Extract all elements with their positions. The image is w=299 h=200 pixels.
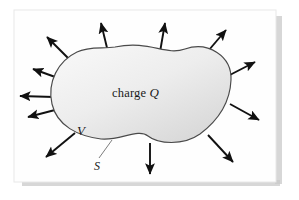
arrow-left-horizontal bbox=[20, 96, 54, 97]
figure-canvas bbox=[0, 0, 299, 200]
charge-symbol: Q bbox=[150, 85, 160, 100]
volume-label: V bbox=[77, 124, 85, 137]
charge-label: charge Q bbox=[112, 86, 159, 100]
surface-label: S bbox=[94, 160, 100, 172]
charge-label-text: charge bbox=[112, 86, 150, 100]
physics-figure: charge Q V S bbox=[0, 0, 299, 200]
